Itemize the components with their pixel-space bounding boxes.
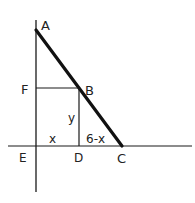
label-F: F bbox=[21, 82, 28, 97]
label-segment-DC: 6-x bbox=[86, 132, 105, 146]
label-A: A bbox=[41, 18, 50, 33]
label-C: C bbox=[117, 151, 126, 166]
label-B: B bbox=[85, 83, 94, 98]
label-segment-ED: x bbox=[49, 132, 56, 146]
triangle-diagram: A B C D E F x 6-x y bbox=[0, 0, 195, 203]
label-segment-BD: y bbox=[68, 111, 75, 125]
label-D: D bbox=[74, 151, 83, 165]
label-E: E bbox=[19, 151, 27, 165]
